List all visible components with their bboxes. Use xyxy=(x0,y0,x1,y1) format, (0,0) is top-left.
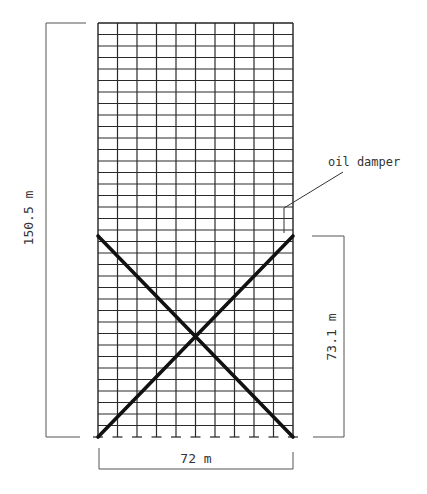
total-height-bracket xyxy=(46,23,86,437)
oil-damper-label: oil damper xyxy=(328,155,400,169)
width-label: 72 m xyxy=(180,451,211,466)
total-height-dimension: 150.5 m xyxy=(21,23,86,437)
frame-diagram: 150.5 m 73.1 m 72 m oil damper xyxy=(0,0,427,494)
damper-zone-height-label: 73.1 m xyxy=(324,313,339,360)
width-dimension: 72 m xyxy=(99,448,293,469)
damper-zone-height-dimension: 73.1 m xyxy=(312,236,344,437)
total-height-label: 150.5 m xyxy=(21,190,36,245)
oil-damper-annotation: oil damper xyxy=(284,155,400,233)
structural-grid xyxy=(98,23,293,437)
